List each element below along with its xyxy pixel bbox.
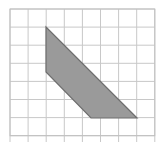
- figure-container: [0, 0, 165, 142]
- grid-figure-svg: [0, 0, 165, 142]
